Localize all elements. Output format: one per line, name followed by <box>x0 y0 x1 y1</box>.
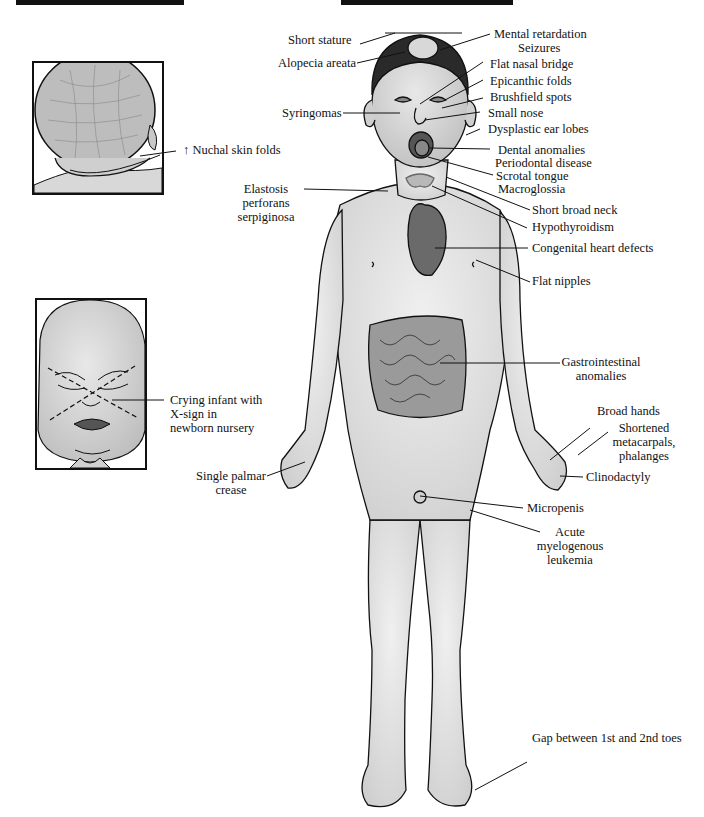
shortened-line-2: metacarpals, <box>604 435 684 449</box>
epicanthic-folds-label: Epicanthic folds <box>490 74 572 88</box>
mental-retardation-label: Mental retardation <box>494 27 587 41</box>
brushfield-spots-label: Brushfield spots <box>490 90 572 104</box>
short-broad-neck-label: Short broad neck <box>532 203 617 217</box>
palmar-line-1: Single palmar <box>190 469 272 483</box>
macroglossia-label: Macroglossia <box>498 182 565 196</box>
elastosis-line-3: serpiginosa <box>230 210 302 224</box>
syringomas-label: Syringomas <box>282 106 342 120</box>
elastosis-line-2: perforans <box>230 196 302 210</box>
nuchal-skin-folds-label: ↑ Nuchal skin folds <box>183 143 281 157</box>
crying-infant-line-3: newborn nursery <box>170 421 262 435</box>
alopecia-areata-label: Alopecia areata <box>278 56 356 70</box>
single-palmar-crease-label: Single palmar crease <box>190 469 272 497</box>
clinodactyly-label: Clinodactyly <box>586 470 651 484</box>
dental-anomalies-label: Dental anomalies <box>498 143 585 157</box>
gastrointestinal-label: Gastrointestinal anomalies <box>556 355 646 383</box>
aml-label: Acute myelogenous leukemia <box>530 525 610 567</box>
nuchal-inset <box>33 52 176 194</box>
seizures-label: Seizures <box>518 41 560 55</box>
aml-line-3: leukemia <box>530 553 610 567</box>
crying-infant-inset <box>36 299 164 469</box>
aml-line-2: myelogenous <box>530 539 610 553</box>
dysplastic-ear-lobes-label: Dysplastic ear lobes <box>488 122 589 136</box>
scrotal-tongue-label: Scrotal tongue <box>496 169 569 183</box>
small-nose-label: Small nose <box>488 106 543 120</box>
flat-nipples-label: Flat nipples <box>532 274 591 288</box>
hypothyroidism-label: Hypothyroidism <box>532 220 614 234</box>
gastrointestinal-line-1: Gastrointestinal <box>556 355 646 369</box>
periodontal-disease-label: Periodontal disease <box>495 156 592 170</box>
elastosis-line-1: Elastosis <box>230 182 302 196</box>
micropenis-label: Micropenis <box>527 501 584 515</box>
toe-gap-label: Gap between 1st and 2nd toes <box>532 731 682 745</box>
crying-infant-label: Crying infant with X-sign in newborn nur… <box>170 393 262 435</box>
gastrointestinal-line-2: anomalies <box>556 369 646 383</box>
short-stature-label: Short stature <box>288 33 352 47</box>
flat-nasal-bridge-label: Flat nasal bridge <box>490 57 573 71</box>
congenital-heart-defects-label: Congenital heart defects <box>532 241 653 255</box>
broad-hands-label: Broad hands <box>597 404 660 418</box>
elastosis-label: Elastosis perforans serpiginosa <box>230 182 302 224</box>
crying-infant-line-1: Crying infant with <box>170 393 262 407</box>
shortened-metacarpals-label: Shortened metacarpals, phalanges <box>604 421 684 463</box>
shortened-line-3: phalanges <box>604 449 684 463</box>
aml-line-1: Acute <box>530 525 610 539</box>
shortened-line-1: Shortened <box>604 421 684 435</box>
crying-infant-line-2: X-sign in <box>170 407 262 421</box>
palmar-line-2: crease <box>190 483 272 497</box>
